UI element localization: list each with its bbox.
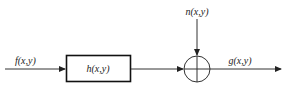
summing-junction-icon [184,56,210,82]
noise-label: n(x,y) [185,6,209,18]
degradation-model-diagram: f(x,y) h(x,y) n(x,y) g(x,y) [0,0,287,89]
input-label: f(x,y) [15,55,36,67]
output-label: g(x,y) [228,55,252,67]
diagram-svg: f(x,y) h(x,y) n(x,y) g(x,y) [0,0,287,89]
block-label: h(x,y) [86,63,110,75]
